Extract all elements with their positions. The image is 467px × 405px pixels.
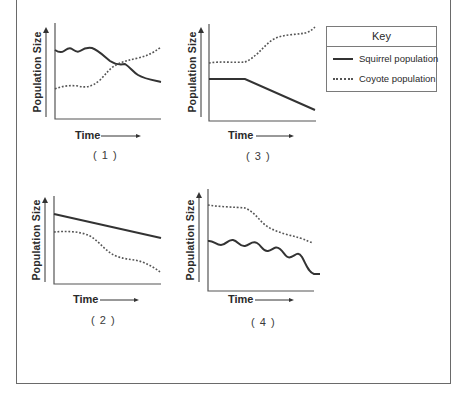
x-axis-label: Time — [228, 293, 253, 305]
legend-label: Coyote population — [359, 73, 436, 84]
y-axis-label: Population Size — [30, 198, 42, 282]
coyote-line — [54, 231, 160, 272]
squirrel-line — [209, 79, 315, 110]
y-axis-label: Population Size — [31, 30, 43, 114]
graph-1 — [46, 23, 161, 138]
x-axis-label: Time — [228, 129, 253, 141]
panel-number: ( 3 ) — [246, 150, 271, 162]
squirrel-line — [54, 214, 161, 238]
legend-label: Squirrel population — [359, 53, 438, 64]
panel-number: ( 4 ) — [251, 316, 276, 328]
coyote-line — [55, 47, 161, 89]
panel-number: ( 2 ) — [91, 314, 116, 326]
legend-item-squirrel: Squirrel population — [333, 53, 438, 64]
dotted-line-swatch-icon — [333, 78, 353, 80]
squirrel-line — [208, 240, 320, 274]
y-axis-label: Population Size — [186, 30, 198, 114]
x-axis-label: Time — [75, 129, 100, 141]
coyote-line — [208, 205, 313, 243]
graph-4 — [199, 189, 320, 302]
graph-2 — [45, 196, 161, 302]
legend-item-coyote: Coyote population — [333, 73, 436, 84]
panel-number: ( 1 ) — [93, 149, 118, 161]
x-axis-label: Time — [73, 293, 98, 305]
squirrel-line — [55, 48, 161, 82]
graph-3 — [201, 24, 316, 138]
legend-title: Key — [327, 27, 436, 47]
legend-key: Key Squirrel population Coyote populatio… — [326, 26, 437, 92]
y-axis-label: Population Size — [184, 198, 196, 282]
coyote-line — [209, 27, 315, 63]
solid-line-swatch-icon — [333, 58, 353, 60]
